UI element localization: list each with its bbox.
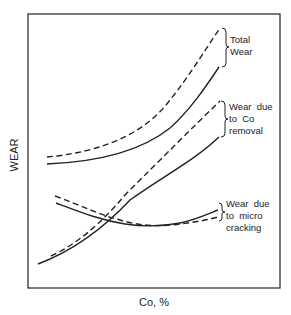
micro-cracking-label-line3: cracking — [226, 222, 261, 233]
co-removal-label-line1: Wear due — [229, 101, 273, 112]
total-wear-label-line2: Wear — [230, 46, 253, 57]
micro-cracking-label-line2: to micro — [226, 210, 262, 221]
micro-cracking-dashed-curve — [55, 196, 218, 226]
total-wear-label-line1: Total — [230, 34, 250, 45]
x-axis-label: Co, % — [139, 296, 169, 308]
co-removal-label-line2: to Co — [229, 113, 254, 124]
co-removal-label-line3: removal — [229, 125, 263, 136]
micro-cracking-label-line1: Wear due — [226, 198, 270, 209]
y-axis-label: WEAR — [8, 138, 20, 171]
wear-chart: Total Wear Wear due to Co removal Wear d… — [0, 0, 291, 315]
total-wear-solid-curve — [47, 67, 219, 164]
micro-cracking-brace — [219, 203, 225, 221]
total-wear-brace — [222, 28, 229, 67]
total-wear-dashed-curve — [47, 28, 220, 157]
co-removal-dashed-curve — [51, 101, 220, 256]
co-removal-brace — [221, 101, 228, 137]
